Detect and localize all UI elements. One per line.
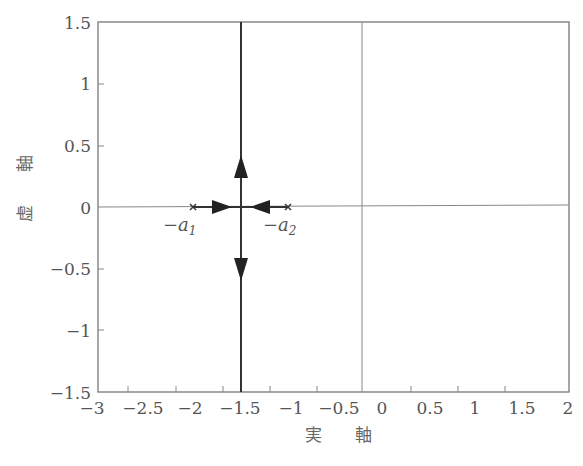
arrow-left-icon <box>250 200 270 214</box>
pole-a2-label: −a2 <box>263 214 296 238</box>
arrow-right-icon <box>212 200 232 214</box>
real-axis-line <box>98 205 569 207</box>
arrow-up-icon <box>234 155 248 178</box>
svg-text:−1: −1 <box>278 398 303 418</box>
svg-text:1: 1 <box>80 74 91 94</box>
y-axis-title: 虚 軸 <box>15 141 35 222</box>
root-locus-chart: −a1 −a2 1.5 1 0.5 0 −0.5 −1 −1.5 −3 −2.5… <box>0 0 583 466</box>
svg-text:−2: −2 <box>177 398 202 418</box>
svg-text:2: 2 <box>563 398 574 418</box>
svg-text:0: 0 <box>80 198 91 218</box>
pole-a1-label: −a1 <box>163 214 196 238</box>
x-ticks <box>128 386 505 392</box>
svg-text:0: 0 <box>377 398 388 418</box>
svg-text:0.5: 0.5 <box>64 136 91 156</box>
svg-text:−3: −3 <box>79 398 104 418</box>
svg-text:−0.5: −0.5 <box>50 259 91 279</box>
arrow-down-icon <box>234 258 248 281</box>
svg-text:1.5: 1.5 <box>64 13 91 33</box>
svg-text:−2.5: −2.5 <box>122 398 163 418</box>
x-tick-labels: −3 −2.5 −2 −1.5 −1 −0.5 0 0.5 1 1.5 2 <box>79 398 573 418</box>
svg-text:1: 1 <box>470 398 481 418</box>
svg-text:1.5: 1.5 <box>508 398 535 418</box>
x-axis-title: 実 軸 <box>305 425 386 445</box>
svg-text:−0.5: −0.5 <box>318 398 359 418</box>
svg-text:−1.5: −1.5 <box>219 398 260 418</box>
y-tick-labels: 1.5 1 0.5 0 −0.5 −1 −1.5 <box>50 13 91 403</box>
svg-text:0.5: 0.5 <box>416 398 443 418</box>
svg-text:−1: −1 <box>66 321 91 341</box>
